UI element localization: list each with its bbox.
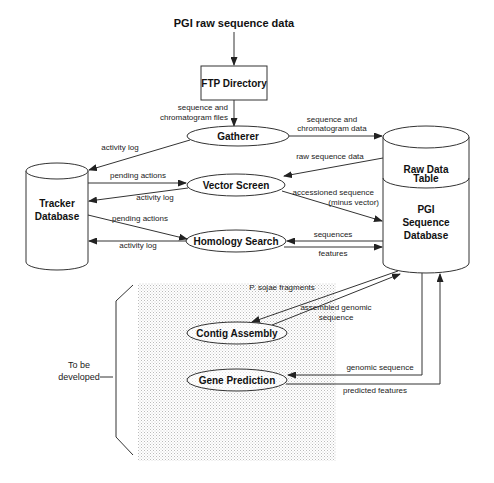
gatherer-label: Gatherer [217,131,259,142]
edge-label: activity log [101,143,138,152]
vector-screen-label: Vector Screen [203,180,270,191]
tracker-label-1: Tracker [39,198,75,209]
diagram-title: PGI raw sequence data [174,17,295,29]
edge-label: features [319,249,348,258]
edge-label: sequences [314,230,353,239]
edge-label: accessioned sequence [293,188,375,197]
edge-label: pending actions [110,171,166,180]
pgi-label-3: Database [404,230,449,241]
edge-label: predicted features [343,386,407,395]
bracket [116,285,133,455]
edge-label: genomic sequence [346,363,414,372]
edge-label: activity log [119,241,156,250]
tracker-label-2: Database [35,211,80,222]
edge-label: activity log [136,193,173,202]
edge-label: sequence [319,313,354,322]
gene-prediction-label: Gene Prediction [199,375,276,386]
bracket-label-line1: To be [68,360,90,370]
tracker-database: Tracker Database [26,163,88,270]
edge-label: chromatogram data [297,124,367,133]
pgi-sequence-database: Raw Data Table PGI Sequence Database [383,126,469,273]
edge-label: pending actions [112,214,168,223]
bracket-label-line2: developed [58,372,100,382]
ftp-directory-label: FTP Directory [201,78,267,89]
pgi-label-1: PGI [417,204,434,215]
pipeline-diagram: To be developed PGI raw sequence data FT… [0,0,494,483]
edge-label: assembled genomic [300,303,371,312]
edge-label: chromatogram files [160,113,228,122]
edge-label: raw sequence data [296,152,364,161]
edge-label: (minus vector) [328,198,379,207]
homology-search-label: Homology Search [193,236,278,247]
contig-assembly-label: Contig Assembly [196,328,278,339]
edge-label: sequence and [307,115,357,124]
edge-label: P. sojae fragments [249,283,315,292]
edge-label: sequence and [178,103,228,112]
pgi-label-2: Sequence [402,217,450,228]
raw-table-label-2: Table [413,173,439,184]
